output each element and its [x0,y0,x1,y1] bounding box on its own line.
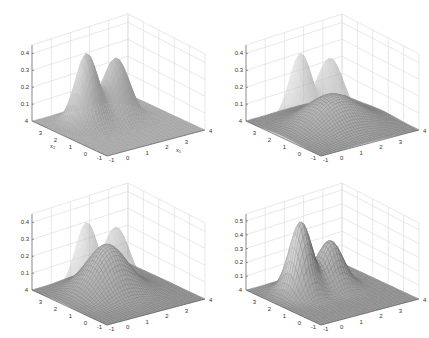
surface-1 [32,244,205,325]
y-tick-label: 1 [283,144,287,150]
z-tick-label: 0.5 [235,218,244,224]
x-tick-label: 2 [379,313,383,319]
surface [246,222,419,325]
y-tick-label: 0 [84,320,88,326]
x-tick-label: 3 [399,308,403,314]
z-tick-label: 0.4 [21,50,30,56]
z-tick-label: 0.2 [21,253,30,259]
z-tick-label: 0.2 [235,84,244,90]
x-tick-label: -1 [323,157,329,163]
y-tick-label: 3 [253,130,257,136]
x-tick-label: -1 [109,157,115,163]
y-tick-label: -1 [311,324,317,330]
panel-bottom-left: 0.10.20.30.444-1-132100123 [0,169,215,338]
z-tick-label: 0.4 [235,232,244,238]
x-tick-label: 0 [340,155,344,161]
x-tick-label: 3 [399,139,403,145]
panel-top-right: 0.10.20.30.444-1-132100123 [214,0,429,169]
x-tick-label: 4 [209,128,213,134]
z-tick-label: 0.2 [21,84,30,90]
z-tick-label: 0.1 [21,270,30,276]
panel-top-left: 0.10.20.30.444-1-132100123x₁x₂ [0,0,215,169]
surface-0 [246,222,419,325]
y-tick-label: 2 [268,137,272,143]
surface [246,54,419,156]
x-tick-label: 1 [360,319,364,325]
x-tick-label: 3 [185,139,189,145]
z-tick-label: 0.3 [235,67,244,73]
y-tick-label: 0 [84,151,88,157]
y-tick-label: 4 [239,287,243,293]
y-tick-label: 3 [253,299,257,305]
x2-axis-label: x₂ [50,143,56,149]
surface [32,223,205,325]
x-tick-label: 2 [165,313,169,319]
x-tick-label: 0 [340,324,344,330]
x-tick-label: -1 [323,326,329,332]
x-tick-label: -1 [109,326,115,332]
x-tick-label: 1 [360,150,364,156]
y-tick-label: 4 [25,287,29,293]
z-tick-label: 0.3 [235,246,244,252]
x1-axis-label: x₁ [176,147,181,153]
z-tick-label: 0.4 [21,219,30,225]
z-tick-label: 0.2 [235,259,244,265]
y-tick-label: -1 [97,324,103,330]
x-tick-label: 0 [126,155,130,161]
surface [32,54,205,156]
y-tick-label: -1 [311,155,317,161]
y-tick-label: 4 [25,118,29,124]
z-tick-label: 0.1 [21,101,30,107]
y-tick-label: 2 [54,306,58,312]
y-tick-label: 3 [39,130,43,136]
panel-bottom-right: 0.10.20.30.40.544-1-132100123 [214,169,429,338]
x-tick-label: 4 [423,297,427,303]
x-tick-label: 2 [379,144,383,150]
y-tick-label: 0 [298,151,302,157]
y-tick-label: 3 [39,299,43,305]
x-tick-label: 1 [146,319,150,325]
y-tick-label: 2 [268,306,272,312]
z-tick-label: 0.4 [235,50,244,56]
z-tick-label: 0.3 [21,67,30,73]
y-tick-label: -1 [97,155,103,161]
z-tick-label: 0.1 [235,101,244,107]
y-tick-label: 1 [69,144,73,150]
figure: 0.10.20.30.444-1-132100123x₁x₂ 0.10.20.3… [0,0,429,338]
y-tick-label: 1 [69,313,73,319]
y-tick-label: 1 [283,313,287,319]
x-tick-label: 3 [185,308,189,314]
z-tick-label: 0.1 [235,273,244,279]
x-tick-label: 4 [209,297,213,303]
z-tick-label: 0.3 [21,236,30,242]
x-tick-label: 2 [165,144,169,150]
surface-0 [32,54,205,156]
y-tick-label: 4 [239,118,243,124]
y-tick-label: 0 [298,320,302,326]
surface-1 [246,94,419,156]
x-tick-label: 0 [126,324,130,330]
x-tick-label: 1 [146,150,150,156]
x-tick-label: 4 [423,128,427,134]
